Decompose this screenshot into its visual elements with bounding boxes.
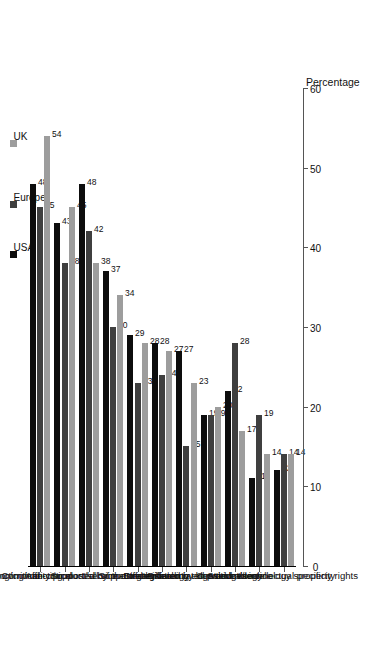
chart-rotation-frame: USAEuropeUK 4845544338454842383730342923… bbox=[0, 0, 366, 662]
bar-uk bbox=[166, 351, 172, 566]
bar-value-label: 54 bbox=[52, 129, 61, 139]
bar-europe bbox=[208, 415, 214, 566]
bar-europe bbox=[62, 263, 68, 566]
legend-item-uk: UK bbox=[8, 122, 19, 147]
bar-europe bbox=[37, 208, 43, 567]
bar-uk bbox=[264, 454, 270, 566]
bar-value-label: 34 bbox=[125, 288, 134, 298]
value-axis-tick bbox=[303, 486, 308, 487]
bar-europe bbox=[86, 231, 92, 566]
bar-value-label: 17 bbox=[247, 424, 256, 434]
bar-usa bbox=[103, 271, 109, 566]
bar-value-label: 42 bbox=[94, 224, 103, 234]
bar-usa bbox=[176, 351, 182, 566]
legend-item-europe: Europe bbox=[8, 165, 19, 208]
bar-usa bbox=[127, 335, 133, 566]
bar-uk bbox=[44, 136, 50, 566]
bar-value-label: 37 bbox=[111, 264, 120, 274]
bar-uk bbox=[117, 295, 123, 566]
bar-uk bbox=[191, 383, 197, 566]
bar-uk bbox=[215, 407, 221, 566]
bar-value-label: 38 bbox=[101, 256, 110, 266]
bar-uk bbox=[93, 263, 99, 566]
bar-uk bbox=[69, 208, 75, 567]
bar-value-label: 28 bbox=[240, 336, 249, 346]
bar-europe bbox=[183, 447, 189, 567]
grouped-bar-chart: USAEuropeUK 4845544338454842383730342923… bbox=[0, 0, 366, 662]
bar-value-label: 14 bbox=[296, 447, 305, 457]
value-axis-tick-label: 50 bbox=[310, 163, 321, 174]
bar-value-label: 19 bbox=[264, 408, 273, 418]
bar-usa bbox=[274, 470, 280, 566]
bar-europe bbox=[232, 343, 238, 566]
value-axis-tick-label: 10 bbox=[310, 482, 321, 493]
bar-value-label: 27 bbox=[184, 344, 193, 354]
legend-label: UK bbox=[14, 131, 28, 142]
legend-item-usa: USA bbox=[8, 226, 19, 258]
value-axis-tick bbox=[303, 407, 308, 408]
bar-value-label: 23 bbox=[199, 376, 208, 386]
value-axis-tick bbox=[303, 168, 308, 169]
bar-usa bbox=[54, 223, 60, 566]
bar-uk bbox=[142, 343, 148, 566]
value-axis-tick bbox=[303, 566, 308, 567]
bar-europe bbox=[110, 327, 116, 566]
bar-europe bbox=[256, 415, 262, 566]
bar-uk bbox=[239, 431, 245, 566]
plot-area: 4845544338454842383730342923282824272715… bbox=[28, 89, 296, 567]
value-axis-tick-label: 20 bbox=[310, 402, 321, 413]
bar-usa bbox=[30, 184, 36, 566]
bar-europe bbox=[135, 383, 141, 566]
bar-value-label: 14 bbox=[272, 447, 281, 457]
chart-legend: USAEuropeUK bbox=[8, 122, 19, 258]
value-axis-tick bbox=[303, 247, 308, 248]
bar-uk bbox=[288, 454, 294, 566]
value-axis-tick bbox=[303, 327, 308, 328]
bar-value-label: 48 bbox=[87, 177, 96, 187]
value-axis-tick-label: 40 bbox=[310, 243, 321, 254]
value-axis-title: Percentage bbox=[306, 76, 360, 88]
bar-usa bbox=[249, 478, 255, 566]
bar-value-label: 28 bbox=[160, 336, 169, 346]
bar-value-label: 29 bbox=[135, 328, 144, 338]
value-axis-tick-label: 30 bbox=[310, 323, 321, 334]
bar-usa bbox=[152, 343, 158, 566]
bar-usa bbox=[79, 184, 85, 566]
value-axis-tick bbox=[303, 88, 308, 89]
bar-europe bbox=[159, 375, 165, 566]
bar-usa bbox=[225, 391, 231, 566]
bar-europe bbox=[281, 454, 287, 566]
category-label: Sensitive to intellectual property right… bbox=[196, 570, 283, 581]
bar-usa bbox=[201, 415, 207, 566]
value-axis-line bbox=[303, 89, 304, 567]
